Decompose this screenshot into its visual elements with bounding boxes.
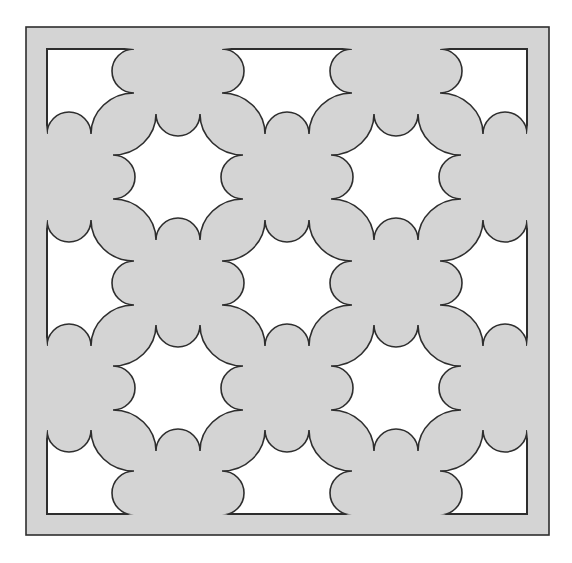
star-cutouts [4, 8, 570, 556]
lattice-figure [0, 0, 572, 563]
lattice-svg [0, 0, 572, 563]
